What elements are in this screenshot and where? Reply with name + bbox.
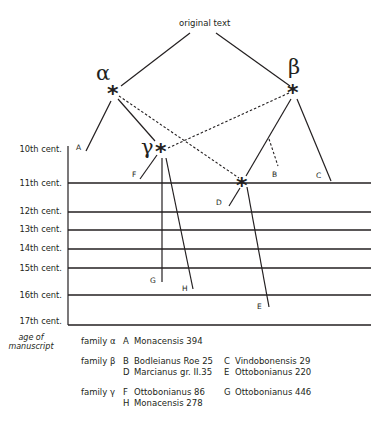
legend-ms-name: Vindobonensis 29: [235, 356, 310, 366]
century-label-14: 14th cent.: [0, 243, 62, 253]
edge-original-alpha: [121, 33, 190, 86]
century-label-12: 12th cent.: [0, 206, 62, 216]
century-label-15: 15th cent.: [0, 263, 62, 273]
legend-entry-H: HMonacensis 278: [123, 398, 203, 409]
legend-entry-B: BBodleianus Roe 25: [123, 356, 213, 367]
legend-ms-name: Bodleianus Roe 25: [134, 356, 213, 366]
legend-ms-name: Monacensis 394: [134, 336, 203, 346]
legend-sigil: H: [123, 398, 134, 409]
legend-sigil: C: [224, 356, 235, 367]
edge-beta-C: [297, 99, 331, 181]
original-text-label: original text: [179, 18, 230, 28]
legend-family-gamma: family γ: [81, 387, 121, 398]
ms-C-label: C: [316, 171, 321, 181]
edge-alpha-lower-dashed: [119, 96, 239, 178]
legend-family-beta: family β: [81, 356, 121, 367]
edge-lower-E: [247, 187, 269, 307]
legend-sigil: G: [224, 387, 235, 398]
legend-entry-C: CVindobonensis 29: [224, 356, 310, 367]
lower-node-marker: *: [236, 175, 248, 197]
beta-label: β: [288, 56, 300, 78]
legend-sigil: F: [123, 387, 134, 398]
century-label-10: 10th cent.: [0, 144, 62, 154]
legend-sigil: E: [224, 367, 235, 378]
edge-beta-gamma-dashed: [168, 93, 289, 148]
beta-node-marker: *: [287, 82, 299, 104]
ms-G-label: G: [150, 276, 156, 286]
legend-ms-name: Monacensis 278: [134, 398, 203, 408]
axis-title-line2: manuscript: [0, 342, 62, 351]
century-label-16: 16th cent.: [0, 290, 62, 300]
legend-ms-name: Ottobonianus 446: [235, 387, 311, 397]
legend-family-alpha: family α: [81, 336, 121, 347]
legend-sigil: B: [123, 356, 134, 367]
legend-ms-name: Ottobonianus 220: [235, 367, 311, 377]
legend-entry-D: DMarcianus gr. II.35: [123, 367, 212, 378]
legend-ms-name: Ottobonianus 86: [134, 387, 205, 397]
axis-title-line1: age of: [0, 333, 62, 342]
gamma-label: γ: [141, 136, 154, 158]
edge-alpha-A: [86, 101, 111, 151]
century-label-11: 11th cent.: [0, 178, 62, 188]
edge-beta-lower: [246, 99, 291, 176]
ms-B-label: B: [272, 170, 277, 180]
legend-sigil: A: [123, 336, 134, 347]
century-label-13: 13th cent.: [0, 224, 62, 234]
edge-gamma-H: [166, 158, 193, 289]
century-label-17: 17th cent.: [0, 316, 62, 326]
ms-H-label: H: [182, 284, 188, 294]
legend: family α AMonacensis 394 family β BBodle…: [81, 336, 381, 426]
legend-entry-E: EOttobonianus 220: [224, 367, 311, 378]
ms-F-label: F: [132, 170, 136, 180]
edge-B-dashed: [269, 139, 278, 166]
legend-entry-A: AMonacensis 394: [123, 336, 203, 347]
ms-A-label: A: [76, 143, 81, 153]
alpha-node-marker: *: [107, 83, 119, 105]
axis-title: age of manuscript: [0, 333, 62, 351]
ms-D-label: D: [216, 198, 222, 208]
ms-E-label: E: [257, 302, 262, 312]
edge-original-beta: [216, 33, 290, 86]
legend-entry-F: FOttobonianus 86: [123, 387, 205, 398]
legend-ms-name: Marcianus gr. II.35: [134, 367, 212, 377]
legend-sigil: D: [123, 367, 134, 378]
gamma-node-marker: *: [155, 141, 167, 163]
legend-entry-G: GOttobonianus 446: [224, 387, 311, 398]
